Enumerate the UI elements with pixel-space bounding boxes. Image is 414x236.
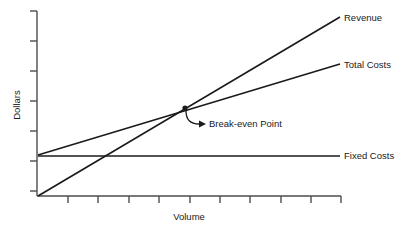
break-even-point-label: Break-even Point bbox=[209, 118, 282, 129]
break-even-point-marker bbox=[182, 105, 187, 110]
break-even-chart: Revenue Total Costs Fixed Costs Break-ev… bbox=[0, 0, 414, 236]
chart-background bbox=[0, 0, 414, 236]
chart-canvas: Revenue Total Costs Fixed Costs Break-ev… bbox=[0, 0, 414, 236]
series-label-fixed-costs: Fixed Costs bbox=[344, 150, 394, 161]
series-label-total-costs: Total Costs bbox=[344, 59, 391, 70]
y-axis-title: Dollars bbox=[11, 90, 22, 120]
x-axis-title: Volume bbox=[173, 211, 205, 222]
series-label-revenue: Revenue bbox=[344, 12, 382, 23]
